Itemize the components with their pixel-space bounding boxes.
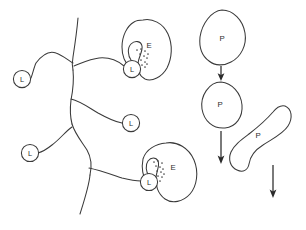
- node-l-middle[interactable]: L: [122, 114, 139, 131]
- interaction-dot: [161, 176, 163, 178]
- interaction-dot: [136, 49, 138, 51]
- node-label-upper-left: L: [20, 75, 24, 84]
- node-label-middle: L: [129, 119, 133, 128]
- interaction-dot: [146, 57, 148, 59]
- interaction-dot: [146, 63, 148, 65]
- node-l-upper-left[interactable]: L: [13, 70, 30, 87]
- interaction-dot: [161, 162, 163, 164]
- interaction-dot: [140, 48, 142, 50]
- node-l-lower-left[interactable]: L: [21, 144, 38, 161]
- diagram-canvas: E E L L L L: [0, 0, 306, 230]
- node-label-lower-right: L: [147, 178, 151, 187]
- node-label-upper-right: L: [130, 65, 134, 74]
- interaction-dot: [157, 175, 159, 177]
- node-l-upper-right[interactable]: L: [123, 60, 140, 77]
- interaction-dot: [157, 160, 159, 162]
- interaction-dot: [144, 61, 146, 63]
- interaction-dot: [144, 50, 146, 52]
- node-label-lower-left: L: [28, 149, 32, 158]
- node-l-lower-right[interactable]: L: [140, 173, 157, 190]
- particle-label-top: P: [219, 34, 224, 43]
- interaction-dot: [159, 180, 161, 182]
- particle-label-middle: P: [217, 100, 222, 109]
- interaction-dot: [153, 161, 155, 163]
- interaction-dot: [139, 53, 141, 55]
- interaction-dot: [162, 168, 164, 170]
- particle-label-bottom: P: [255, 131, 260, 140]
- interaction-dot: [160, 171, 162, 173]
- enzyme-label-upper: E: [146, 41, 151, 50]
- enzyme-label-lower: E: [170, 163, 175, 172]
- interaction-dot: [141, 64, 143, 66]
- interaction-dot: [156, 170, 158, 172]
- interaction-dot: [163, 173, 165, 175]
- interaction-dot: [144, 66, 146, 68]
- interaction-dot: [143, 55, 145, 57]
- interaction-dot: [159, 166, 161, 168]
- interaction-dot: [147, 53, 149, 55]
- figure-root: E E L L L L: [0, 0, 306, 230]
- interaction-dot: [155, 165, 157, 167]
- interaction-dot: [140, 59, 142, 61]
